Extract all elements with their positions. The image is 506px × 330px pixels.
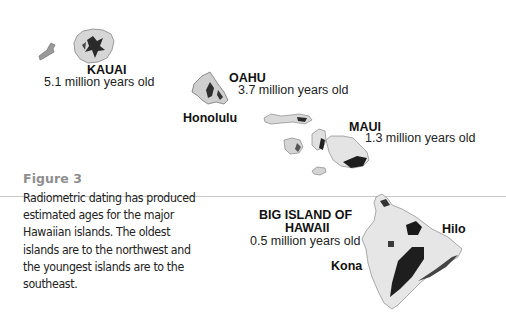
honolulu-label: Honolulu [183,111,237,125]
niihau-island-image [38,42,56,62]
figure-label: Figure 3 [23,171,82,186]
caption-line: the youngest islands are to the [23,259,189,276]
maui-age: 1.3 million years old [365,131,475,145]
kauai-age: 5.1 million years old [44,75,154,89]
caption-line: Radiometric dating has produced [23,190,189,207]
caption-line: estimated ages for the major [23,207,189,224]
caption-line: Hawaiian islands. The oldest [23,224,189,241]
lanai-island-image [282,137,304,155]
oahu-island-image [190,70,230,106]
big-island-age: 0.5 million years old [250,234,360,248]
kahoolawe-island-image [311,166,327,176]
maui-island-image [309,128,371,170]
big-island-name-line2: HAWAII [285,221,329,235]
caption-line: islands are to the northwest and [23,242,189,259]
kauai-island-image [73,28,115,64]
big-island-name-line1: BIG ISLAND OF [259,208,352,222]
molokai-island-image [263,112,313,126]
big-island-image [358,193,464,311]
hilo-label: Hilo [442,222,466,236]
caption-line: southeast. [23,276,189,293]
kona-label: Kona [331,259,362,273]
oahu-age: 3.7 million years old [238,83,348,97]
figure-caption: Radiometric dating has produced estimate… [23,190,189,293]
